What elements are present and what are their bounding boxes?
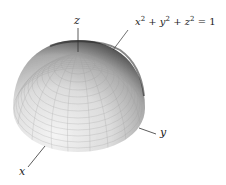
sphere-equation: x2 + y2 + z2 = 1 [135, 17, 216, 27]
hemisphere-surface [13, 40, 145, 152]
y-axis [139, 128, 156, 134]
equation-leader-line [113, 30, 128, 50]
y-axis-label: y [160, 127, 166, 138]
x-axis-label: x [19, 166, 25, 177]
z-axis-label: z [74, 15, 80, 26]
hemisphere-diagram [0, 0, 226, 185]
x-axis [28, 146, 45, 167]
